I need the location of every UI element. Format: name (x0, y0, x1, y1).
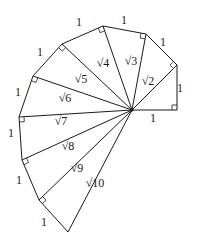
hypotenuse-label: √5 (75, 72, 88, 86)
unit-label: 1 (41, 215, 47, 229)
unit-edge (19, 76, 33, 117)
hypotenuse-label: √9 (71, 161, 84, 175)
right-angle-mark (42, 197, 46, 204)
hypotenuse-label: √6 (59, 91, 72, 105)
hypotenuse-label: √3 (125, 54, 138, 68)
unit-edge (103, 26, 146, 34)
hypotenuse-label: √10 (86, 176, 105, 190)
unit-label: 1 (121, 13, 127, 27)
hypotenuse-label: √7 (55, 114, 68, 128)
right-angle-mark (19, 117, 24, 122)
center-point (131, 109, 134, 112)
spoke-line (22, 110, 132, 160)
right-angle-mark (59, 47, 66, 51)
unit-edge (62, 26, 103, 44)
unit-label: 1 (37, 45, 43, 59)
hypotenuse-label: √2 (142, 74, 155, 88)
unit-label: 1 (177, 81, 183, 95)
right-angle-mark (170, 61, 174, 68)
unit-label: 1 (8, 126, 14, 140)
unit-edge (19, 117, 22, 160)
hypotenuse-label: √4 (97, 56, 110, 70)
spoke-line (62, 44, 132, 110)
unit-label: 1 (160, 35, 166, 49)
unit-label: 1 (150, 111, 156, 125)
unit-label: 1 (16, 173, 22, 187)
spoke-line (19, 110, 132, 117)
unit-label: 1 (76, 15, 82, 29)
unit-edge (22, 160, 39, 200)
hypotenuse-label: √8 (62, 139, 75, 153)
right-angle-mark (172, 105, 177, 110)
spiral-of-theodorus-diagram: √2√3√4√5√6√7√8√9√101111111111 (0, 0, 197, 247)
unit-label: 1 (15, 85, 21, 99)
